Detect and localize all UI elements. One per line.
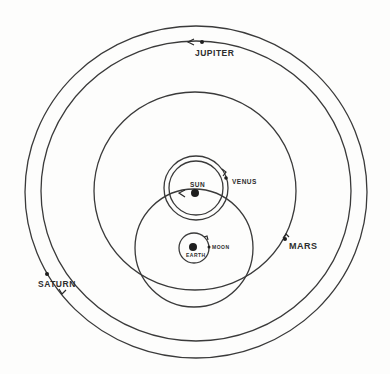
moon-label: MOON — [212, 244, 230, 250]
jupiter-arrow-icon — [188, 39, 194, 45]
venus-body — [224, 176, 228, 180]
diagram-canvas: JUPITER SUN VENUS MOON EARTH MARS SATURN — [0, 0, 390, 374]
earth-body — [189, 243, 197, 251]
mars-label: MARS — [289, 241, 318, 251]
venus-orbit-outer — [164, 156, 228, 220]
sun-body — [191, 189, 199, 197]
earth-label: EARTH — [186, 252, 206, 258]
saturn-label: SATURN — [38, 279, 76, 289]
jupiter-label: JUPITER — [195, 48, 234, 58]
solar-system-diagram: JUPITER SUN VENUS MOON EARTH MARS SATURN — [0, 0, 390, 374]
saturn-body — [45, 272, 49, 276]
venus-label: VENUS — [232, 178, 257, 185]
moon-body — [208, 246, 211, 249]
sun-label: SUN — [190, 181, 205, 188]
jupiter-body — [200, 40, 204, 44]
venus-orbit-inner — [169, 161, 223, 215]
